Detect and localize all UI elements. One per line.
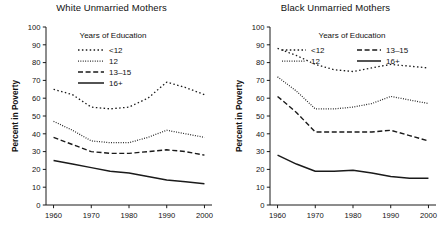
svg-text:<12: <12 — [109, 46, 123, 55]
svg-text:20: 20 — [32, 165, 40, 174]
figure-root: White Unmarried Mothers 0102030405060708… — [0, 0, 447, 245]
svg-text:1980: 1980 — [345, 211, 362, 220]
svg-text:60: 60 — [256, 94, 264, 103]
svg-text:16+: 16+ — [109, 79, 123, 88]
svg-text:1960: 1960 — [269, 211, 286, 220]
svg-text:80: 80 — [256, 58, 264, 67]
chart-svg-white: 0102030405060708090100196019701980199020… — [0, 0, 223, 245]
svg-text:70: 70 — [32, 76, 40, 85]
svg-text:Years of Education: Years of Education — [80, 31, 147, 40]
svg-text:1970: 1970 — [307, 211, 324, 220]
svg-text:100: 100 — [28, 23, 41, 32]
svg-text:90: 90 — [32, 41, 40, 50]
chart-svg-black: 0102030405060708090100196019701980199020… — [224, 0, 447, 245]
svg-text:0: 0 — [36, 201, 40, 210]
svg-text:80: 80 — [32, 58, 40, 67]
chart-panel-white: White Unmarried Mothers 0102030405060708… — [0, 0, 223, 245]
svg-text:20: 20 — [256, 165, 264, 174]
svg-text:1960: 1960 — [45, 211, 62, 220]
svg-text:2000: 2000 — [196, 211, 213, 220]
svg-text:10: 10 — [32, 183, 40, 192]
svg-text:1970: 1970 — [83, 211, 100, 220]
svg-text:12: 12 — [311, 57, 320, 66]
svg-text:1990: 1990 — [158, 211, 175, 220]
svg-text:2000: 2000 — [420, 211, 437, 220]
svg-text:0: 0 — [260, 201, 264, 210]
svg-text:1980: 1980 — [121, 211, 138, 220]
svg-text:30: 30 — [256, 147, 264, 156]
svg-text:Percent in Poverty: Percent in Poverty — [235, 80, 244, 152]
svg-text:60: 60 — [32, 94, 40, 103]
svg-text:40: 40 — [32, 130, 40, 139]
svg-text:40: 40 — [256, 130, 264, 139]
svg-text:13–15: 13–15 — [109, 68, 132, 77]
svg-text:Years of Education: Years of Education — [319, 31, 386, 40]
svg-text:10: 10 — [256, 183, 264, 192]
svg-text:1990: 1990 — [382, 211, 399, 220]
svg-text:Percent in Poverty: Percent in Poverty — [11, 80, 20, 152]
svg-text:12: 12 — [109, 57, 118, 66]
svg-text:90: 90 — [256, 41, 264, 50]
svg-text:<12: <12 — [311, 46, 325, 55]
svg-text:70: 70 — [256, 76, 264, 85]
svg-text:30: 30 — [32, 147, 40, 156]
svg-text:13–15: 13–15 — [386, 46, 409, 55]
svg-text:50: 50 — [32, 112, 40, 121]
chart-panel-black: Black Unmarried Mothers 0102030405060708… — [224, 0, 447, 245]
svg-text:16+: 16+ — [386, 57, 400, 66]
svg-text:50: 50 — [256, 112, 264, 121]
svg-text:100: 100 — [252, 23, 265, 32]
